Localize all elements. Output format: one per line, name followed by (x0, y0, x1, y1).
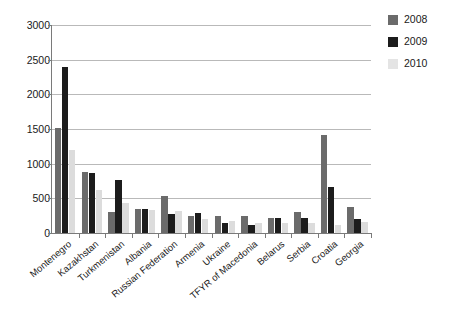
bar-group (265, 25, 292, 233)
bar (321, 135, 327, 233)
x-axis-tick (291, 233, 292, 238)
bar (96, 190, 102, 233)
bar (108, 212, 114, 233)
legend-label: 2008 (404, 14, 427, 25)
x-axis-tick (371, 233, 372, 238)
bar (175, 211, 181, 233)
bar (347, 207, 353, 233)
bar (361, 222, 367, 233)
x-axis-category-label: Kazakhstan (55, 239, 99, 278)
bar (248, 225, 254, 233)
bar (241, 216, 247, 233)
x-axis-tick (265, 233, 266, 238)
legend-swatch-icon (388, 37, 398, 47)
x-axis-category-label: Russian Federation (110, 239, 179, 299)
bar (229, 221, 235, 233)
bar (195, 213, 201, 233)
x-axis-tick (344, 233, 345, 238)
bar (294, 212, 300, 233)
bar (122, 203, 128, 233)
x-axis-category-label: Armenia (173, 239, 206, 269)
y-axis-tick-label: 2000 (27, 89, 50, 100)
bar (161, 196, 167, 233)
bar (69, 150, 75, 233)
bar (328, 187, 334, 233)
legend-swatch-icon (388, 59, 398, 69)
x-axis-tick (318, 233, 319, 238)
x-axis-category-label: Turkmenistan (76, 239, 126, 283)
bar (275, 218, 281, 233)
bar (115, 180, 121, 233)
x-axis-category-label: Belarus (255, 239, 286, 267)
bar-group (158, 25, 185, 233)
bar-group (212, 25, 239, 233)
legend-label: 2010 (404, 58, 427, 69)
plot-area (51, 25, 371, 234)
x-axis-tick (158, 233, 159, 238)
x-axis-category-label: TFYR of Macedonia (188, 239, 259, 301)
bar (89, 173, 95, 233)
bar (354, 219, 360, 233)
x-axis-category-label: Ukraine (201, 239, 232, 267)
bar-group (344, 25, 371, 233)
x-axis-tick (79, 233, 80, 238)
y-axis-tick-label: 1000 (27, 158, 50, 169)
bar (301, 218, 307, 233)
bar (202, 219, 208, 233)
bar (62, 67, 68, 233)
bar (222, 223, 228, 233)
bar (255, 223, 261, 233)
bar (268, 218, 274, 233)
bar-group (291, 25, 318, 233)
legend-item[interactable]: 2008 (388, 14, 458, 25)
bar (282, 223, 288, 233)
x-axis-category-label: Croatia (309, 239, 339, 266)
x-axis-tick (132, 233, 133, 238)
bar-group (52, 25, 79, 233)
bar-group (105, 25, 132, 233)
x-axis-category-label: Serbia (285, 239, 312, 264)
y-axis-tick-label: 2500 (27, 54, 50, 65)
bar (215, 216, 221, 233)
x-axis-tick (185, 233, 186, 238)
bar (188, 216, 194, 233)
y-axis-tick-label: 1500 (27, 124, 50, 135)
bar-group (79, 25, 106, 233)
bar (308, 223, 314, 233)
bar (168, 214, 174, 233)
bar-group (185, 25, 212, 233)
bar (135, 209, 141, 233)
bar (142, 209, 148, 233)
x-axis-tick (105, 233, 106, 238)
bar-chart: 050010001500200025003000 MontenegroKazak… (0, 0, 464, 312)
y-axis-tick (48, 233, 52, 234)
bar (335, 225, 341, 233)
bar-group (318, 25, 345, 233)
y-axis-tick-labels: 050010001500200025003000 (0, 0, 50, 312)
x-axis-category-label: Albania (122, 239, 152, 267)
bar (55, 128, 61, 233)
legend-label: 2009 (404, 36, 427, 47)
bar-group (238, 25, 265, 233)
bar-group (132, 25, 159, 233)
x-axis-category-label: Georgia (333, 239, 365, 268)
bar (82, 172, 88, 233)
chart-legend: 200820092010 (388, 14, 458, 80)
bar (149, 210, 155, 233)
y-axis-tick-label: 3000 (27, 20, 50, 31)
legend-item[interactable]: 2009 (388, 36, 458, 47)
x-axis-tick (212, 233, 213, 238)
legend-item[interactable]: 2010 (388, 58, 458, 69)
legend-swatch-icon (388, 15, 398, 25)
x-axis-tick (238, 233, 239, 238)
